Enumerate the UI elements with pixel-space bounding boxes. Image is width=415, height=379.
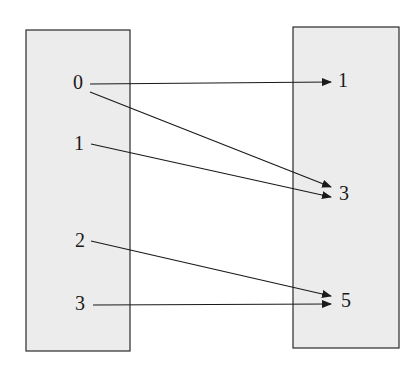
function-mapping-diagram: 0 1 2 3 1 3 5 (0, 0, 415, 379)
domain-element: 3 (75, 292, 85, 314)
codomain-element: 5 (341, 289, 351, 311)
codomain-element: 3 (339, 182, 349, 204)
codomain-element: 1 (338, 69, 348, 91)
domain-element: 1 (74, 132, 84, 154)
domain-element: 0 (73, 71, 83, 93)
domain-element: 2 (75, 229, 85, 251)
